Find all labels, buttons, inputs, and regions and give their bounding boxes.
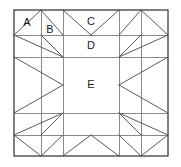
region-label-e: E [87, 78, 94, 90]
region-label-c: C [87, 15, 95, 27]
quilt-block-svg: A B C D E [0, 0, 181, 167]
quilt-block-diagram: A B C D E [0, 0, 181, 167]
region-label-a: A [23, 16, 31, 28]
region-label-b: B [46, 23, 53, 35]
region-label-d: D [87, 39, 95, 51]
